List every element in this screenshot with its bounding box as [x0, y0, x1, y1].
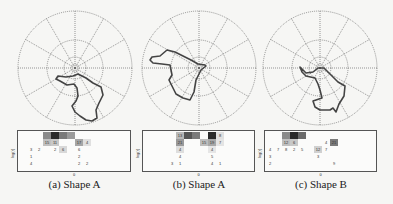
polar-spoke: [171, 19, 200, 68]
polar-spoke: [26, 68, 75, 97]
histogram-cell: [192, 132, 200, 139]
polar-plot-2: [263, 11, 377, 125]
subfigure-caption: (b) Shape A: [134, 178, 265, 190]
histogram-cell: 4: [322, 139, 330, 146]
shape-context-histogram: 126421478251273329: [264, 130, 377, 172]
histogram-x-label: θ: [73, 172, 75, 177]
histogram-cell: 2: [35, 146, 43, 153]
histogram-cell: 4: [176, 146, 184, 153]
histogram-cell: 2: [75, 160, 83, 167]
histogram-cell: 4: [208, 146, 216, 153]
histogram-cell: 12: [314, 146, 322, 153]
histogram-x-label: θ: [320, 172, 322, 177]
shape-contour: [56, 74, 103, 121]
histogram-cell: 6: [75, 146, 83, 153]
histogram-cell: 17: [75, 139, 83, 146]
histogram-cell: 15: [43, 139, 51, 146]
histogram-y-label: log(r): [135, 149, 140, 158]
histogram-cell: 8: [216, 132, 224, 139]
histogram-cell: 8: [282, 146, 290, 153]
histogram-cell: 3: [168, 160, 176, 167]
histogram-cell: [282, 132, 290, 139]
histogram-cell: 7: [216, 139, 224, 146]
polar-spoke: [199, 68, 228, 117]
histogram-cell: 9: [330, 160, 338, 167]
histogram-cell: 13: [176, 132, 184, 139]
histogram-cell: 3: [266, 153, 274, 160]
histogram-cell: 2: [290, 146, 298, 153]
histogram-cell: 2: [75, 153, 83, 160]
histogram-cell: 4: [176, 153, 184, 160]
polar-plot-0: [18, 11, 132, 125]
histogram-cell: 12: [282, 139, 290, 146]
histogram-cell: [290, 132, 298, 139]
polar-spoke: [320, 40, 369, 69]
histogram-cell: 4: [27, 160, 35, 167]
histogram-cell: 2: [83, 160, 91, 167]
histogram-cell: 7: [322, 146, 330, 153]
polar-spoke: [47, 19, 76, 68]
polar-spoke: [75, 68, 124, 97]
histogram-cell: 1: [27, 153, 35, 160]
histogram-cell: 4: [83, 139, 91, 146]
histogram-cell: 5: [298, 146, 306, 153]
histogram-cell: 5: [208, 153, 216, 160]
histogram-cell: [298, 132, 306, 139]
histogram-cell: [59, 132, 67, 139]
histogram-cell: 1: [176, 160, 184, 167]
shape-context-histogram: 15111743226612422: [17, 130, 131, 172]
histogram-cell: [51, 132, 59, 139]
shape-context-histogram: 13338211519744453141: [142, 130, 255, 172]
polar-spoke: [26, 40, 75, 69]
histogram-cell: 7: [274, 146, 282, 153]
histogram-cell: 6: [59, 146, 67, 153]
histogram-cell: [43, 132, 51, 139]
histogram-cell: 21: [176, 139, 184, 146]
subfigure-caption: (a) Shape A: [9, 178, 140, 190]
histogram-cell: 21: [330, 139, 338, 146]
polar-spoke: [199, 68, 248, 97]
histogram-y-label: log(r): [10, 149, 15, 158]
shape-contour: [150, 50, 206, 100]
histogram-cell: 6: [290, 139, 298, 146]
subfigure-caption: (c) Shape B: [256, 178, 387, 190]
histogram-cell: 19: [208, 139, 216, 146]
histogram-cell: 4: [266, 146, 274, 153]
histogram-y-label: log(r): [257, 149, 262, 158]
polar-spoke: [292, 19, 321, 68]
histogram-cell: 3: [314, 153, 322, 160]
polar-spoke: [47, 68, 76, 117]
polar-spoke: [75, 40, 124, 69]
polar-spoke: [320, 19, 349, 68]
histogram-cell: 2: [266, 160, 274, 167]
histogram-cell: 3: [27, 146, 35, 153]
polar-plots: [0, 0, 393, 130]
polar-spoke: [271, 40, 320, 69]
histogram-x-label: θ: [198, 172, 200, 177]
histogram-cell: [184, 132, 192, 139]
histogram-cell: 15: [200, 139, 208, 146]
histogram-cell: 1: [216, 160, 224, 167]
polar-spoke: [75, 19, 104, 68]
histogram-cell: [67, 132, 75, 139]
polar-spoke: [199, 40, 248, 69]
histogram-cell: 2: [51, 146, 59, 153]
histogram-cell: 11: [51, 139, 59, 146]
histogram-cell: 4: [208, 160, 216, 167]
polar-plot-1: [142, 11, 256, 125]
histogram-cell: 33: [208, 132, 216, 139]
polar-spoke: [199, 19, 228, 68]
